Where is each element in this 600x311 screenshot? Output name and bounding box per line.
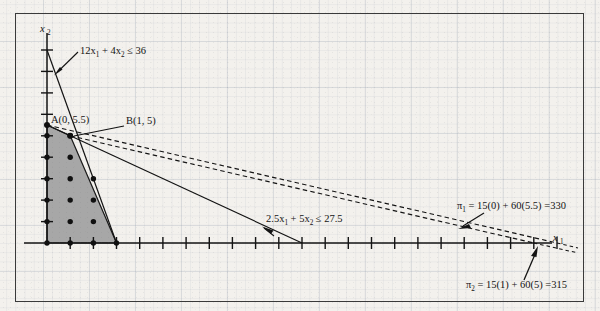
lattice-point (68, 240, 73, 245)
lattice-point (68, 197, 73, 202)
lattice-point (91, 240, 96, 245)
lattice-point (91, 197, 96, 202)
svg-text:x: x (552, 232, 558, 243)
figure-border (16, 14, 584, 302)
isoprofit-line-pi2-extension (534, 243, 576, 253)
lattice-point (44, 155, 49, 160)
axis-name-x2: x 2 (39, 23, 51, 37)
lattice-point (91, 219, 96, 224)
constraint-1-annotation: 12x1 + 4x2 ≤ 36 (54, 45, 146, 76)
vertex-label-b: B(1, 5) (126, 115, 156, 127)
lattice-point (44, 240, 49, 245)
vertex-marker-a (44, 122, 50, 128)
lattice-point (114, 240, 119, 245)
profit-2-annotation: π2 = 15(1) + 60(5) =315 (466, 246, 567, 293)
lattice-point (44, 219, 49, 224)
lattice-point (68, 155, 73, 160)
isoprofit-line-pi1 (47, 125, 557, 243)
lattice-point (44, 133, 49, 138)
lattice-point (44, 176, 49, 181)
constraint-2-label: 2.5x1 + 5x2 ≤ 27.5 (266, 213, 343, 227)
lattice-point (68, 176, 73, 181)
constraint-2-annotation: 2.5x1 + 5x2 ≤ 27.5 (262, 213, 343, 236)
svg-text:x: x (39, 23, 45, 34)
profit-1-label: π1 = 15(0) + 60(5.5) =330 (457, 200, 566, 214)
lattice-point (44, 197, 49, 202)
feasible-region (47, 125, 117, 243)
vertex-marker-b (67, 133, 73, 139)
lattice-point (91, 176, 96, 181)
lattice-point (68, 219, 73, 224)
svg-text:2: 2 (47, 29, 51, 37)
vertex-label-a: A(0, 5.5) (51, 114, 90, 126)
axis-name-x1: x 1 (552, 232, 564, 246)
constraint-1-label: 12x1 + 4x2 ≤ 36 (80, 45, 146, 59)
profit-1-annotation: π1 = 15(0) + 60(5.5) =330 (457, 200, 566, 229)
graph-figure: x 1 x 2 12x1 + 4x2 ≤ 3 (0, 0, 600, 311)
profit-2-label: π2 = 15(1) + 60(5) =315 (466, 279, 567, 293)
